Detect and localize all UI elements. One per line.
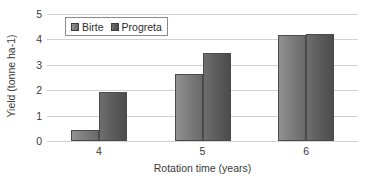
y-axis-tick-label: 5	[26, 8, 42, 20]
legend-swatch-icon	[111, 23, 119, 31]
y-axis-tick-labels: 012345	[26, 8, 42, 148]
y-axis-tick-label: 3	[26, 59, 42, 71]
legend-label: Birte	[82, 21, 104, 33]
x-axis-tick-label: 6	[276, 144, 336, 158]
y-axis-tick-label: 0	[26, 135, 42, 147]
x-axis-tick-label: 5	[173, 144, 233, 158]
legend-item-progreta: Progreta	[111, 21, 162, 33]
gridline	[47, 14, 358, 15]
bar-progreta-6	[306, 34, 334, 141]
y-axis-tick-label: 1	[26, 110, 42, 122]
y-axis-tick-label: 4	[26, 33, 42, 45]
x-axis-title: Rotation time (years)	[47, 162, 358, 174]
legend: BirteProgreta	[65, 17, 168, 36]
legend-label: Progreta	[122, 21, 162, 33]
bar-birte-5	[175, 74, 203, 141]
bar-birte-6	[278, 35, 306, 141]
y-axis-title: Yield (tonne ha-1)	[2, 6, 20, 146]
bar-progreta-4	[99, 92, 127, 141]
legend-swatch-icon	[71, 23, 79, 31]
legend-item-birte: Birte	[71, 21, 104, 33]
x-axis-tick-labels: 456	[47, 144, 358, 160]
y-axis-tick-label: 2	[26, 84, 42, 96]
x-axis-tick-label: 4	[69, 144, 129, 158]
gridline	[47, 141, 358, 142]
bar-progreta-5	[203, 53, 231, 141]
bar-chart: Yield (tonne ha-1) 012345 456 Rotation t…	[0, 0, 366, 182]
bar-birte-4	[71, 130, 99, 141]
